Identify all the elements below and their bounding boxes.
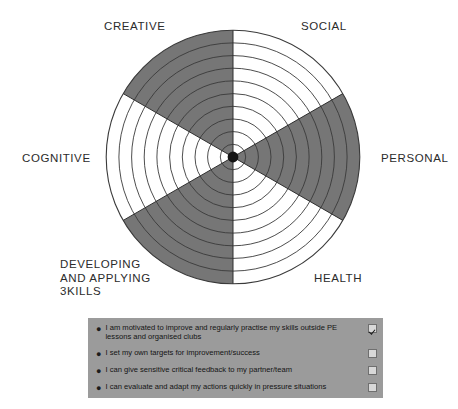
checkbox-item-4[interactable] [368,383,377,392]
axis-label-health: HEALTH [314,272,362,286]
checklist-item-label: I am motivated to improve and regularly … [105,323,362,341]
axis-label-developing-line3: 3KILLS [60,285,151,299]
axis-label-developing-line1: DEVELOPING [60,258,151,272]
checklist-item-label: I can evaluate and adapt my actions quic… [105,382,326,391]
checkbox-item-1[interactable] [368,324,377,333]
skills-wheel-chart: CREATIVE SOCIAL COGNITIVE PERSONAL HEALT… [0,0,458,315]
axis-label-personal: PERSONAL [381,152,448,166]
list-item[interactable]: ● I am motivated to improve and regularl… [96,323,377,341]
checklist-panel: ● I am motivated to improve and regularl… [88,318,383,398]
axis-label-developing-line2: AND APPLYING [60,272,151,286]
list-item[interactable]: ● I can give sensitive critical feedback… [96,365,377,376]
checkbox-item-2[interactable] [368,349,377,358]
axis-label-creative: CREATIVE [104,20,165,34]
bullet-icon: ● [96,383,101,393]
list-item[interactable]: ● I set my own targets for improvement/s… [96,348,377,359]
checklist-item-label: I set my own targets for improvement/suc… [105,348,259,357]
axis-label-cognitive: COGNITIVE [22,152,91,166]
bullet-icon: ● [96,349,101,359]
checkbox-item-3[interactable] [368,366,377,375]
checklist-item-label: I can give sensitive critical feedback t… [105,365,292,374]
bullet-icon: ● [96,324,101,334]
wheel-center-hub [228,152,239,163]
list-item[interactable]: ● I can evaluate and adapt my actions qu… [96,382,377,393]
axis-label-social: SOCIAL [301,20,347,34]
axis-label-developing-applying-skills: DEVELOPING AND APPLYING 3KILLS [60,258,151,299]
bullet-icon: ● [96,366,101,376]
